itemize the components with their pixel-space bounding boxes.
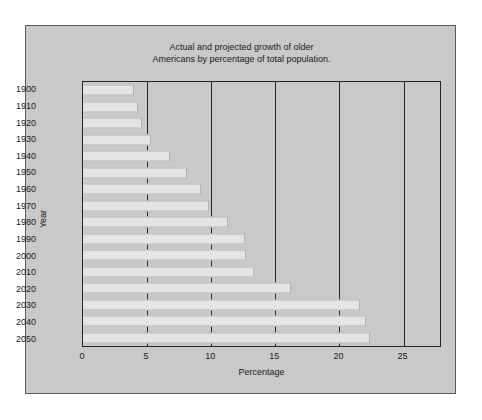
- y-tick-2000: 2000: [0, 251, 36, 261]
- y-tick-2020: 2020: [0, 284, 36, 294]
- y-tick-2040: 2040: [0, 317, 36, 327]
- y-tick-1920: 1920: [0, 118, 36, 128]
- bar-1940: [83, 151, 170, 162]
- y-tick-1930: 1930: [0, 134, 36, 144]
- bar-2020: [83, 283, 291, 294]
- bar-2010: [83, 266, 254, 277]
- bar-row: [83, 148, 440, 165]
- bar-series: [83, 82, 440, 346]
- bar-2050: [83, 332, 370, 343]
- bar-1910: [83, 101, 138, 112]
- bar-row: [83, 297, 440, 314]
- bar-1900: [83, 85, 134, 96]
- bar-1920: [83, 118, 142, 129]
- bar-row: [83, 247, 440, 264]
- chart-title: Actual and projected growth of older Ame…: [26, 41, 457, 65]
- bar-row: [83, 264, 440, 281]
- chart-title-line-1: Actual and projected growth of older: [26, 41, 457, 53]
- y-tick-1940: 1940: [0, 151, 36, 161]
- plot-area: [82, 81, 441, 347]
- bar-row: [83, 165, 440, 182]
- x-tick-20: 20: [318, 351, 358, 361]
- bar-row: [83, 214, 440, 231]
- bar-row: [83, 330, 440, 347]
- x-tick-5: 5: [126, 351, 166, 361]
- x-tick-15: 15: [254, 351, 294, 361]
- y-tick-1900: 1900: [0, 84, 36, 94]
- y-tick-1950: 1950: [0, 167, 36, 177]
- bar-row: [83, 198, 440, 215]
- y-tick-1990: 1990: [0, 234, 36, 244]
- bar-row: [83, 313, 440, 330]
- y-tick-1960: 1960: [0, 184, 36, 194]
- bar-1980: [83, 217, 228, 228]
- x-axis-label: Percentage: [82, 367, 441, 377]
- x-tick-0: 0: [62, 351, 102, 361]
- y-tick-1910: 1910: [0, 101, 36, 111]
- y-tick-2010: 2010: [0, 267, 36, 277]
- x-tick-25: 25: [383, 351, 423, 361]
- y-tick-2030: 2030: [0, 300, 36, 310]
- bar-1930: [83, 134, 151, 145]
- bar-row: [83, 132, 440, 149]
- chart-figure: Actual and projected growth of older Ame…: [25, 25, 456, 394]
- bar-1990: [83, 233, 245, 244]
- y-tick-2050: 2050: [0, 334, 36, 344]
- bar-row: [83, 99, 440, 116]
- y-axis-label: Year: [38, 189, 48, 249]
- bar-2030: [83, 299, 360, 310]
- bar-1960: [83, 184, 201, 195]
- bar-row: [83, 280, 440, 297]
- chart-title-line-2: Americans by percentage of total populat…: [26, 53, 457, 65]
- x-tick-10: 10: [190, 351, 230, 361]
- y-tick-1970: 1970: [0, 201, 36, 211]
- bar-row: [83, 115, 440, 132]
- bar-row: [83, 181, 440, 198]
- bar-row: [83, 82, 440, 99]
- y-tick-1980: 1980: [0, 217, 36, 227]
- bar-1970: [83, 200, 209, 211]
- bar-1950: [83, 167, 187, 178]
- bar-2000: [83, 250, 246, 261]
- bar-2040: [83, 316, 366, 327]
- bar-row: [83, 231, 440, 248]
